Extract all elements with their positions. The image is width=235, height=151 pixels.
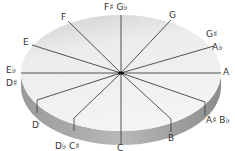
label-ds: D♯: [6, 78, 17, 88]
label-a: A: [223, 67, 230, 77]
label-db-cs: D♭ C♯: [55, 141, 80, 151]
label-d: D: [32, 120, 39, 130]
label-b: B: [168, 133, 174, 143]
disc-svg: F♯ G♭ G G♯ A♭ A A♯ B♭ B C D♭ C♯ D E♭ D♯ …: [0, 0, 235, 151]
label-ab: A♭: [212, 42, 222, 52]
label-eb: E♭: [6, 65, 16, 75]
label-f: F: [61, 12, 66, 22]
label-g: G: [169, 10, 176, 20]
center-point: [118, 71, 124, 74]
label-gs: G♯: [206, 29, 217, 39]
label-c: C: [117, 143, 123, 151]
label-e: E: [23, 37, 29, 47]
label-fs-gb: F♯ G♭: [104, 2, 128, 12]
pitch-class-disc-diagram: F♯ G♭ G G♯ A♭ A A♯ B♭ B C D♭ C♯ D E♭ D♯ …: [0, 0, 235, 151]
label-as-bb: A♯ B♭: [206, 115, 230, 125]
